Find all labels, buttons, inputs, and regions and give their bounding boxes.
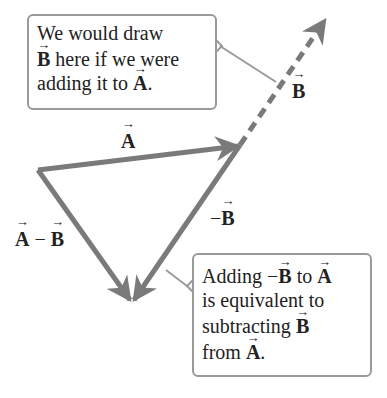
vector-b-dashed bbox=[240, 20, 325, 145]
callout-text: from bbox=[202, 341, 246, 363]
callout-top-leader bbox=[220, 46, 276, 82]
callout-bottom: Adding −B to A is equivalent to subtract… bbox=[192, 253, 372, 377]
callout-text: . bbox=[260, 341, 265, 363]
label-b: B bbox=[292, 80, 305, 103]
callout-top: We would draw B here if we were adding i… bbox=[27, 14, 217, 110]
minus-sign: − bbox=[210, 207, 221, 229]
vector-a-symbol: A bbox=[246, 341, 260, 363]
vector-b-symbol: B bbox=[37, 48, 50, 70]
callout-text: Adding − bbox=[202, 265, 278, 287]
callout-bottom-leader bbox=[166, 270, 187, 286]
vector-a-symbol: A bbox=[15, 228, 29, 251]
vector-b-symbol: B bbox=[296, 315, 309, 337]
minus-sign: − bbox=[29, 228, 50, 250]
callout-text: here if we were bbox=[50, 48, 179, 70]
label-a: A bbox=[121, 130, 135, 153]
callout-text: We would draw bbox=[37, 22, 163, 44]
vector-b-symbol: B bbox=[221, 207, 234, 230]
vector-b-symbol: B bbox=[51, 228, 64, 251]
vector-b-symbol: B bbox=[278, 265, 291, 287]
callout-text: adding it to bbox=[37, 72, 133, 94]
vector-b-symbol: B bbox=[292, 80, 305, 103]
label-neg-b: −B bbox=[210, 207, 235, 230]
callout-text: to bbox=[292, 265, 318, 287]
vector-a-symbol: A bbox=[317, 265, 331, 287]
vector-a bbox=[38, 146, 238, 170]
vector-a-symbol: A bbox=[133, 72, 147, 94]
vector-a-symbol: A bbox=[121, 130, 135, 153]
label-a-minus-b: A − B bbox=[15, 228, 64, 251]
callout-text: . bbox=[148, 72, 153, 94]
